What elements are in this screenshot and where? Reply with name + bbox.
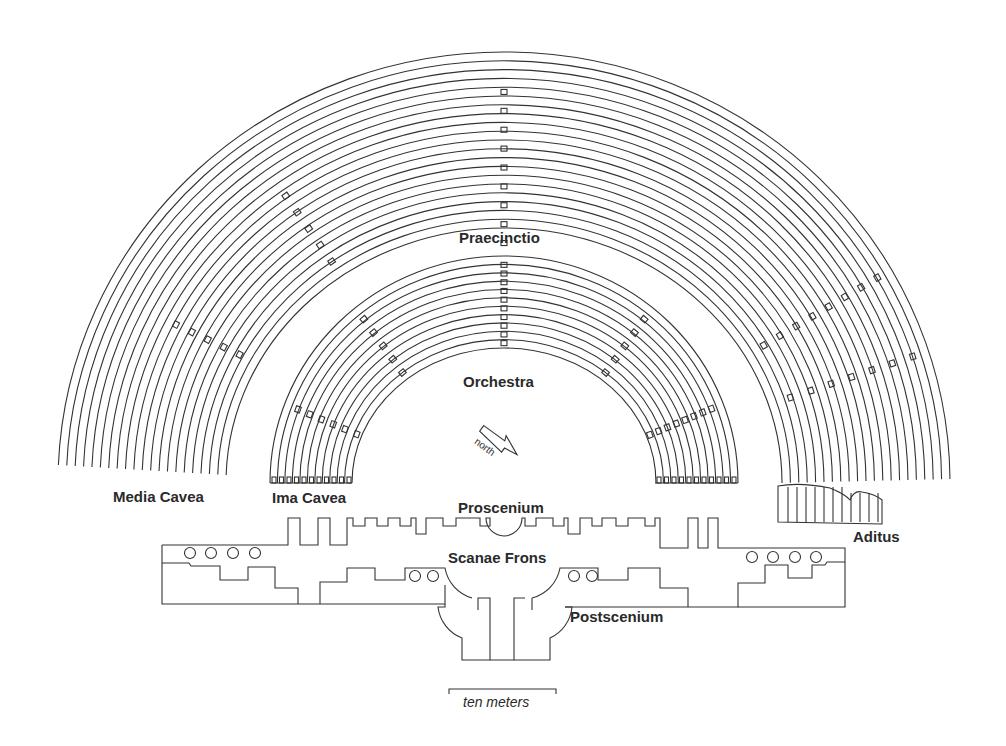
north-arrow: north [471, 422, 522, 470]
label-praecinctio: Praecinctio [459, 229, 540, 246]
scale-bar-label: ten meters [463, 694, 529, 710]
port-hole-icon [185, 548, 196, 559]
scale-bar: ten meters [449, 689, 556, 710]
label-ima-cavea: Ima Cavea [272, 489, 347, 506]
port-hole-icon [228, 548, 239, 559]
label-orchestra: Orchestra [463, 373, 535, 390]
label-scaenae-frons: Scanae Frons [448, 549, 546, 566]
port-hole-icon [428, 571, 439, 582]
label-media-cavea: Media Cavea [113, 488, 205, 505]
theater-plan-diagram: north ten meters Praecinctio Orchestra M… [0, 0, 1006, 746]
port-hole-icon [206, 548, 217, 559]
port-hole-icon [811, 552, 822, 563]
port-hole-icon [768, 552, 779, 563]
port-hole-icon [250, 548, 261, 559]
label-proscenium: Proscenium [458, 499, 544, 516]
label-aditus: Aditus [853, 528, 900, 545]
port-hole-icon [569, 571, 580, 582]
port-hole-icon [587, 571, 598, 582]
port-hole-icon [747, 552, 758, 563]
port-hole-icon [410, 571, 421, 582]
port-hole-icon [790, 552, 801, 563]
stage-building [162, 518, 845, 660]
label-postscenium: Postscenium [570, 608, 663, 625]
north-arrow-label: north [472, 436, 497, 458]
aditus-block [778, 484, 882, 524]
